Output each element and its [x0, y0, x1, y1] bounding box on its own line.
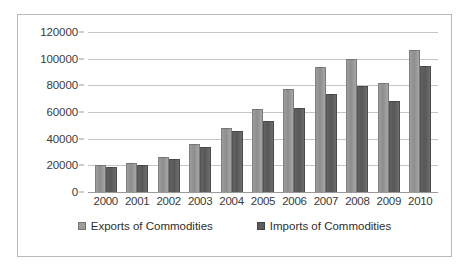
bar-group	[310, 32, 341, 192]
legend-item[interactable]: Exports of Commodities	[78, 220, 213, 232]
y-axis-tick-label: 0	[72, 186, 78, 198]
bar-group	[216, 32, 247, 192]
imports-bar[interactable]	[169, 159, 180, 192]
imports-bar[interactable]	[200, 147, 211, 192]
bar-group	[153, 32, 184, 192]
bar-group	[342, 32, 373, 192]
exports-bar[interactable]	[189, 144, 200, 192]
y-axis-tick-label: 40000	[47, 133, 78, 145]
x-axis-tick-label: 2006	[279, 195, 310, 207]
bar-group	[90, 32, 121, 192]
imports-bar[interactable]	[420, 66, 431, 192]
y-axis-tick-mark	[79, 192, 84, 193]
exports-bar[interactable]	[283, 89, 294, 192]
bar-group	[373, 32, 404, 192]
y-axis: 020000400006000080000100000120000	[18, 32, 84, 192]
y-axis-tick-label: 100000	[40, 53, 78, 65]
imports-bar[interactable]	[232, 131, 243, 192]
imports-bar[interactable]	[294, 108, 305, 192]
y-axis-tick-label: 60000	[47, 106, 78, 118]
imports-bar[interactable]	[263, 121, 274, 192]
imports-swatch	[257, 222, 265, 230]
exports-bar[interactable]	[252, 109, 263, 192]
y-axis-tick-label: 120000	[40, 26, 78, 38]
imports-bar[interactable]	[389, 101, 400, 192]
chart-legend: Exports of CommoditiesImports of Commodi…	[18, 220, 451, 232]
bar-group	[279, 32, 310, 192]
x-axis-tick-label: 2010	[405, 195, 436, 207]
x-axis-tick-label: 2005	[247, 195, 278, 207]
axis-baseline	[88, 192, 438, 193]
legend-label: Imports of Commodities	[270, 220, 391, 232]
x-axis-tick-label: 2002	[153, 195, 184, 207]
x-axis-tick-label: 2008	[342, 195, 373, 207]
exports-bar[interactable]	[315, 67, 326, 192]
bar-group	[405, 32, 436, 192]
x-axis-tick-label: 2009	[373, 195, 404, 207]
exports-bar[interactable]	[221, 128, 232, 192]
y-axis-tick-mark	[79, 112, 84, 113]
x-axis-tick-label: 2000	[90, 195, 121, 207]
y-axis-tick-mark	[79, 165, 84, 166]
exports-swatch	[78, 222, 86, 230]
imports-bar[interactable]	[357, 86, 368, 192]
y-axis-tick-mark	[79, 32, 84, 33]
legend-item[interactable]: Imports of Commodities	[257, 220, 391, 232]
bar-group	[247, 32, 278, 192]
x-axis-tick-label: 2001	[121, 195, 152, 207]
y-axis-tick-mark	[79, 85, 84, 86]
exports-bar[interactable]	[409, 50, 420, 192]
y-axis-tick-label: 80000	[47, 79, 78, 91]
x-axis-tick-label: 2004	[216, 195, 247, 207]
x-axis-tick-label: 2003	[184, 195, 215, 207]
y-axis-tick-mark	[79, 58, 84, 59]
exports-bar[interactable]	[126, 163, 137, 192]
exports-bar[interactable]	[378, 83, 389, 192]
exports-bar[interactable]	[95, 165, 106, 192]
chart-container: 020000400006000080000100000120000 200020…	[17, 14, 452, 257]
imports-bar[interactable]	[137, 165, 148, 192]
imports-bar[interactable]	[326, 94, 337, 192]
imports-bar[interactable]	[106, 167, 117, 192]
exports-bar[interactable]	[346, 59, 357, 192]
x-axis: 2000200120022003200420052006200720082009…	[88, 195, 438, 207]
plot-area	[88, 32, 438, 192]
legend-label: Exports of Commodities	[91, 220, 213, 232]
bar-series-container	[88, 32, 438, 192]
exports-bar[interactable]	[158, 157, 169, 192]
bar-group	[121, 32, 152, 192]
y-axis-tick-mark	[79, 138, 84, 139]
x-axis-tick-label: 2007	[310, 195, 341, 207]
bar-group	[184, 32, 215, 192]
y-axis-tick-label: 20000	[47, 159, 78, 171]
